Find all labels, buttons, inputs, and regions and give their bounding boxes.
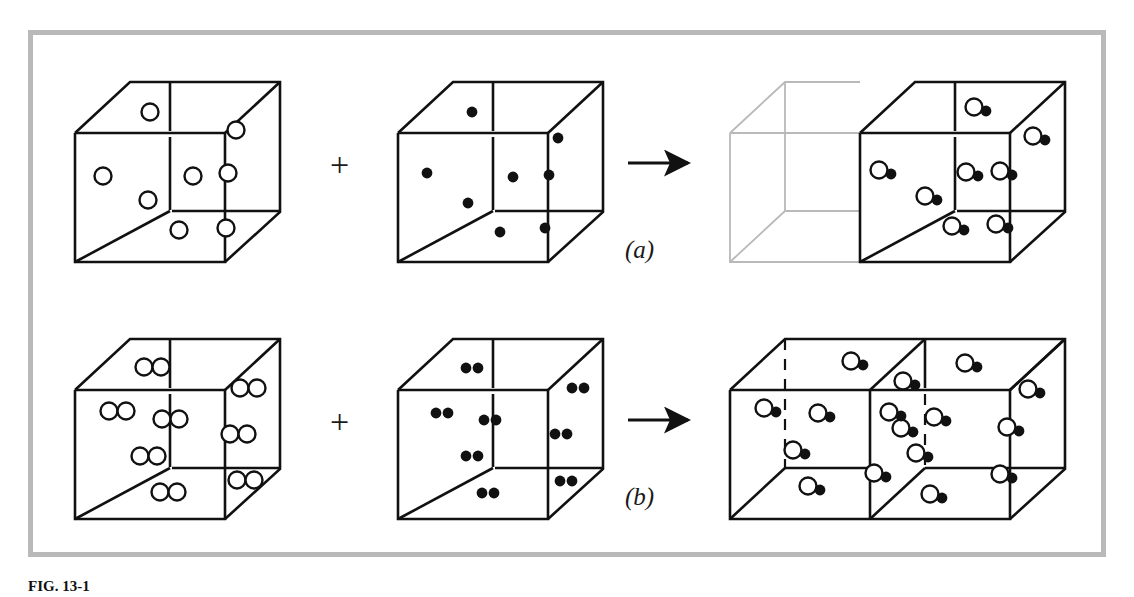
particles-b-reactant-1	[101, 359, 266, 501]
figure-caption-number: FIG. 13-1	[28, 578, 90, 594]
particles-b-product	[756, 353, 1046, 504]
box-a-product-ghost	[730, 82, 860, 262]
figure-root: + + (a) (b) FIG. 13-1	[0, 0, 1134, 597]
box-b-reactant-2	[398, 339, 603, 519]
plus-sign-b: +	[330, 405, 349, 439]
row-label-a: (a)	[625, 236, 654, 264]
figure-caption: FIG. 13-1	[28, 578, 628, 597]
figure-drawing-canvas	[0, 0, 1134, 597]
row-label-b: (b)	[625, 483, 654, 511]
particles-b-reactant-2	[431, 363, 590, 499]
plus-sign-a: +	[330, 148, 349, 182]
